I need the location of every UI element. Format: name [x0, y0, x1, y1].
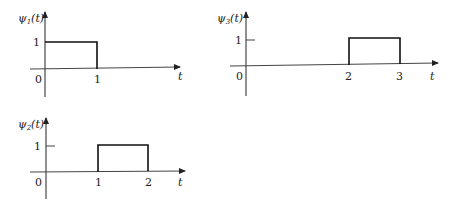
psi1-level-label: 1 [33, 36, 40, 49]
psi2-xlabel: t [178, 176, 183, 189]
psi3-level-label: 1 [235, 34, 242, 47]
plot-psi2: ψ2(t) 1 0 1 2 t [18, 118, 185, 199]
psi1-pulse [45, 42, 97, 69]
psi2-origin-label: 0 [35, 176, 42, 189]
psi2-pulse-end-label: 2 [145, 176, 152, 189]
psi2-level-label: 1 [34, 140, 41, 153]
plot-psi1: ψ1(t) 1 0 1 t [18, 12, 183, 97]
psi1-xlabel: t [178, 70, 183, 83]
psi2-ylabel: ψ2(t) [18, 118, 44, 132]
psi3-xlabel: t [430, 70, 435, 83]
psi2-pulse-start-label: 1 [95, 176, 102, 189]
psi1-x-axis [30, 67, 180, 69]
plot-psi3: ψ3(t) 1 0 2 3 t [217, 12, 438, 96]
psi1-pulse-end-label: 1 [94, 73, 101, 86]
psi2-x-axis [30, 171, 185, 172]
psi3-x-axis [230, 63, 438, 66]
psi3-origin-label: 0 [236, 70, 243, 83]
psi2-pulse [98, 145, 148, 172]
psi1-origin-label: 0 [35, 73, 42, 86]
psi3-pulse [349, 38, 400, 65]
psi3-pulse-start-label: 2 [345, 70, 352, 83]
psi3-pulse-end-label: 3 [396, 70, 403, 83]
psi1-ylabel: ψ1(t) [18, 12, 44, 26]
psi3-ylabel: ψ3(t) [217, 12, 243, 26]
